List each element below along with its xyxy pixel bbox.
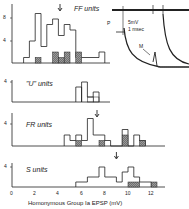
s-ytick-4: 4	[4, 163, 7, 169]
u-panel: 4 "U" units	[4, 78, 110, 102]
fr-ytick-4: 4	[4, 120, 7, 126]
ff-mean-arrow-icon	[58, 4, 62, 11]
u-ytick-4: 4	[4, 78, 7, 84]
s-units-label: S units	[26, 166, 48, 173]
trace-label-p: P	[107, 20, 111, 26]
xtick-0: 0	[10, 190, 13, 196]
s-mean-arrow-icon	[114, 152, 118, 159]
x-axis: 0 2 4 6 8 10 12 Homonymous Group Ia EPSP…	[10, 190, 154, 206]
ff-ytick-4: 4	[3, 37, 6, 43]
ff-panel: 8 4 FF units	[3, 4, 110, 63]
s-panel: 4 S units	[4, 152, 165, 187]
ff-units-label: FF units	[74, 5, 100, 12]
trace-label-m: M	[139, 43, 143, 49]
xtick-6: 6	[80, 190, 83, 196]
xtick-12: 12	[148, 190, 154, 196]
fr-units-label: FR units	[26, 121, 53, 128]
fr-panel: 4 FR units	[4, 110, 165, 146]
xtick-10: 10	[125, 190, 131, 196]
x-axis-title: Homonymous Group Ia EPSP (mV)	[28, 200, 122, 206]
ff-ytick-8: 8	[3, 14, 6, 20]
xtick-4: 4	[56, 190, 59, 196]
scale-mv: 5mV	[128, 19, 139, 25]
epsp-trace-inset: P 5mV 1 msec M	[107, 5, 189, 67]
s-histogram-outline	[76, 167, 151, 187]
figure: 8 4 FF units P 5mV 1 msec M 4	[0, 0, 189, 209]
u-units-label: "U" units	[26, 80, 53, 87]
fr-mean-arrow-icon	[95, 110, 99, 117]
xtick-2: 2	[33, 190, 36, 196]
xtick-8: 8	[103, 190, 106, 196]
scale-ms: 1 msec	[128, 26, 145, 32]
